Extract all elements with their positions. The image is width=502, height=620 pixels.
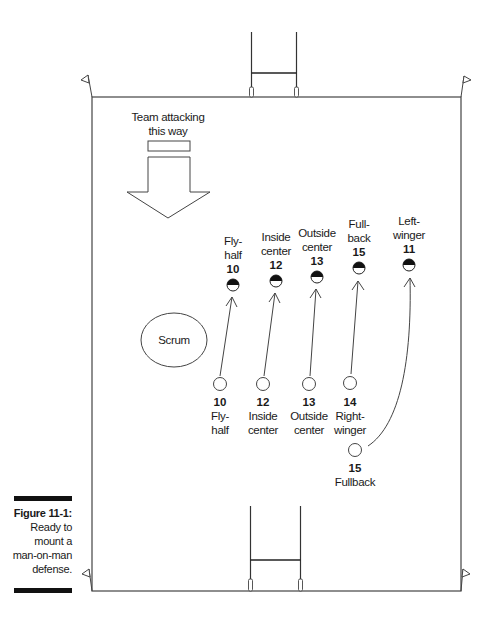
defender-left-winger: Left- winger 11 [392, 215, 426, 271]
svg-text:Right-: Right- [336, 410, 365, 422]
svg-text:Outside: Outside [298, 227, 336, 239]
playing-field [92, 97, 461, 591]
top-goal-posts [250, 32, 299, 97]
caption-rule-bottom [14, 588, 72, 593]
rugby-defense-diagram: Team attacking this way Scrum Fly- half … [0, 0, 502, 620]
svg-text:center: center [294, 424, 325, 436]
defender-outside-center: Outside center 13 [298, 227, 336, 283]
svg-text:half: half [224, 249, 242, 261]
attacker-outside-center: 13 Outside center [290, 378, 328, 437]
corner-flag-icon [82, 569, 92, 591]
svg-text:Inside: Inside [249, 410, 278, 422]
figure-title: Figure 11-1: [14, 507, 72, 519]
corner-flag-icon [461, 569, 470, 591]
attacker-right-winger: 14 Right- winger [333, 377, 367, 437]
svg-text:14: 14 [344, 396, 357, 408]
attack-arrow-tail [148, 141, 190, 151]
figure-caption: defense. [32, 563, 72, 575]
corner-flag-icon [461, 76, 471, 97]
defender-inside-center: Inside center 12 [261, 231, 292, 287]
defender-full-back: Full- back 15 [347, 218, 371, 274]
svg-text:12: 12 [270, 259, 283, 271]
figure-caption: Ready to [30, 521, 72, 533]
defender-fly-half: Fly- half 10 [224, 235, 243, 291]
svg-text:Left-: Left- [398, 215, 420, 227]
attack-direction-arrow-icon [127, 157, 210, 218]
figure-caption: man-on-man [13, 549, 73, 561]
svg-text:center: center [302, 241, 333, 253]
attack-direction-label: this way [148, 125, 188, 137]
svg-text:13: 13 [303, 396, 316, 408]
svg-text:Fly-: Fly- [211, 410, 229, 422]
svg-text:Outside: Outside [290, 410, 328, 422]
figure-caption: mount a [34, 535, 73, 547]
caption-rule-top [14, 496, 72, 501]
svg-text:Fullback: Fullback [335, 476, 376, 488]
corner-flag-icon [81, 75, 92, 97]
attacker-fly-half: 10 Fly- half [211, 378, 230, 437]
attacker-inside-center: 12 Inside center [248, 378, 279, 437]
svg-text:12: 12 [257, 396, 270, 408]
attack-direction-label: Team attacking [131, 111, 204, 123]
svg-text:winger: winger [333, 424, 367, 436]
svg-text:back: back [347, 232, 371, 244]
svg-text:winger: winger [392, 229, 426, 241]
svg-text:center: center [261, 245, 292, 257]
svg-text:10: 10 [214, 396, 227, 408]
svg-text:15: 15 [349, 462, 362, 474]
attacker-fullback: 15 Fullback [335, 444, 376, 489]
svg-text:15: 15 [353, 246, 366, 258]
svg-text:11: 11 [403, 243, 416, 255]
svg-text:center: center [248, 424, 279, 436]
svg-text:13: 13 [311, 255, 324, 267]
svg-text:Full-: Full- [349, 218, 370, 230]
svg-text:Fly-: Fly- [224, 235, 242, 247]
bottom-goal-posts [249, 506, 303, 591]
svg-text:half: half [211, 424, 229, 436]
svg-text:10: 10 [227, 263, 240, 275]
scrum-label: Scrum [158, 334, 190, 346]
svg-text:Inside: Inside [262, 231, 291, 243]
